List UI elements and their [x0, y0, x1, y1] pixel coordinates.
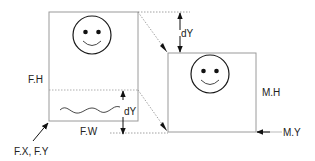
bottom-projection-arrowhead	[160, 122, 167, 131]
bottom-dy-label: dY	[124, 106, 137, 117]
frame-origin-label: F.X, F.Y	[14, 146, 49, 157]
frame-height-label: F.H	[28, 74, 43, 85]
mapped-height-label: M.H	[262, 87, 280, 98]
mapped-y-label: M.Y	[283, 127, 301, 138]
frame-box	[49, 12, 138, 121]
top-dy-label: dY	[181, 28, 194, 39]
origin-arrow	[33, 123, 48, 141]
frame-width-label: F.W	[80, 126, 98, 137]
mapping-diagram: F.H F.W F.X, F.Y M.H M.Y dY dY	[0, 0, 315, 161]
